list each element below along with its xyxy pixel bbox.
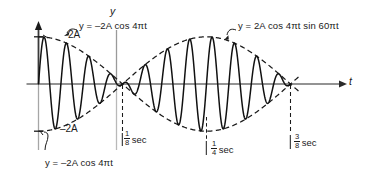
main-curve-annotation: y = 2A cos 4πt sin 60πt — [238, 21, 339, 31]
t-tick-label-one-quarter: 1 4 sec — [211, 140, 234, 157]
main-curve-leader-arrow — [224, 35, 229, 40]
unit-sec: sec — [219, 144, 234, 155]
t-tick-label-three-eighths: 3 8 sec — [294, 133, 317, 150]
t-axis-arrowhead — [339, 80, 347, 87]
y-axis-label: y — [110, 6, 115, 17]
unit-sec: sec — [302, 137, 317, 148]
beat-waveform-figure: y t 2A –2A y = –2A cos 4πt y = 2A cos 4π… — [0, 0, 372, 181]
main-curve-leader — [227, 29, 236, 35]
upper-envelope-annotation: y = –2A cos 4πt — [79, 21, 147, 31]
lower-envelope-annotation: y = –2A cos 4πt — [45, 158, 113, 168]
t-axis-label: t — [349, 76, 352, 87]
lower-envelope-leader — [44, 132, 48, 150]
y-axis-arrowhead — [35, 21, 42, 30]
fraction-one-eighth: 1 8 — [124, 130, 130, 147]
t-tick-label-one-eighth: 1 8 sec — [124, 130, 147, 147]
y-tick-label-2a: 2A — [68, 30, 80, 40]
fraction-one-quarter: 1 4 — [211, 140, 217, 157]
unit-sec: sec — [132, 134, 147, 145]
fraction-three-eighths: 3 8 — [294, 133, 300, 150]
y-tick-label-minus-2a: –2A — [60, 124, 78, 134]
